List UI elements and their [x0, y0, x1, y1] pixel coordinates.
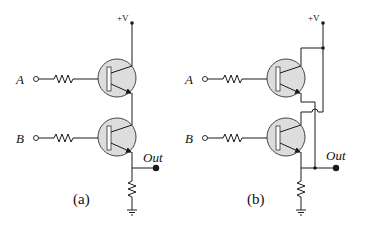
transistor-a-top: [98, 59, 136, 97]
input-terminal-a-b: [203, 77, 208, 82]
transistor-base-bar: [107, 126, 111, 150]
transistor-body: [98, 118, 136, 156]
ground-icon: [127, 210, 137, 215]
emitter-resistor-a: [128, 178, 136, 210]
collector-wire-bottom-b: [301, 109, 323, 125]
ground-icon: [296, 210, 306, 215]
transistor-b-bottom: [98, 118, 136, 156]
output-junction-b: [313, 166, 317, 170]
transistor-body: [98, 59, 136, 97]
input-terminal-b: [34, 136, 39, 141]
output-terminal-b: [333, 165, 339, 171]
input-resistor-b-b: [208, 134, 268, 142]
output-terminal-a: [153, 165, 159, 171]
supply-label-b: +V: [308, 13, 320, 23]
input-terminal-a: [34, 77, 39, 82]
input-label-a: A: [15, 72, 24, 87]
transistor-base-bar: [276, 67, 280, 91]
circuit-a: +V A B Out: [15, 13, 163, 215]
input-resistor-a: [39, 75, 99, 83]
input-resistor-b: [39, 134, 99, 142]
circuit-diagram: +V A B Out: [0, 0, 371, 228]
input-terminal-b-b: [203, 136, 208, 141]
input-resistor-a-b: [208, 75, 268, 83]
input-label-b: B: [16, 131, 24, 146]
output-label-a: Out: [143, 150, 163, 165]
transistor-body: [267, 59, 305, 97]
input-label-a-b: A: [184, 72, 193, 87]
emitter-resistor-b: [297, 178, 305, 210]
transistor-base-bar: [107, 67, 111, 91]
supply-label-a: +V: [117, 13, 129, 23]
circuit-b: +V A B: [184, 13, 346, 215]
output-label-b: Out: [326, 148, 346, 163]
transistor-body: [267, 118, 305, 156]
transistor-base-bar: [276, 126, 280, 150]
caption-b: (b): [247, 191, 265, 208]
input-label-b-b: B: [185, 131, 193, 146]
transistor-b-bottom: [267, 118, 305, 156]
caption-a: (a): [73, 191, 90, 208]
collector-wire-top-b: [301, 48, 323, 66]
transistor-a-top: [267, 59, 305, 97]
